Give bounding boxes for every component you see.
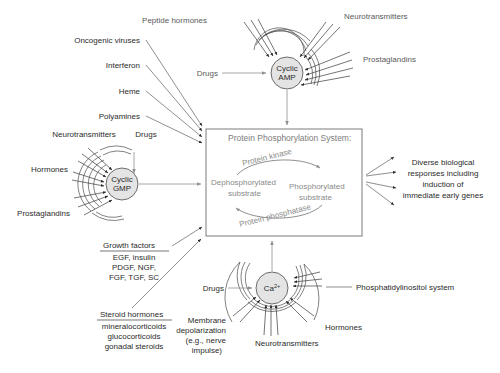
camp-ligand-ph-1 — [244, 22, 269, 57]
label-ca-hormones: Hormones — [325, 323, 362, 332]
phosphorylated-substrate-line2: substrate — [299, 193, 332, 202]
signal-transduction-diagram: Protein Phosphorylation System: Protein … — [0, 0, 500, 373]
cgmp-ligand-nt-1 — [88, 148, 112, 170]
label-polyamines: Polyamines — [99, 112, 140, 121]
camp-label-line1: Cyclic — [276, 64, 297, 73]
camp-membrane-arc-2 — [259, 31, 308, 46]
label-interferon: Interferon — [106, 61, 140, 70]
calcium-cell: Ca2+ — [225, 241, 322, 336]
ca-ligand-md-2 — [240, 300, 260, 322]
output-arrow-1 — [366, 157, 394, 175]
output-arrow-4 — [366, 184, 394, 205]
label-heme: Heme — [119, 87, 141, 96]
box-title: Protein Phosphorylation System: — [228, 133, 351, 143]
camp-ligand-ph-2 — [251, 20, 273, 56]
growth-factors-box: Growth factors EGF, insulin PDGF, NGF, F… — [100, 227, 202, 282]
output-line-3: induction of — [423, 180, 465, 189]
camp-ligand-nt-3 — [308, 27, 340, 60]
cyclic-gmp-cell: Cyclic GMP — [72, 146, 201, 220]
camp-membrane-arc-7 — [306, 57, 313, 84]
label-ca-neurotransmitters: Neurotransmitters — [255, 339, 319, 348]
growth-factors-line-2: PDGF, NGF, — [112, 263, 156, 272]
label-membrane-depol-3: (e.g., nerve — [186, 336, 227, 345]
cgmp-label-line1: Cyclic — [111, 175, 132, 184]
ca-ligand-hm-1 — [286, 301, 307, 322]
label-cgmp-neurotransmitters: Neurotransmitters — [52, 130, 116, 139]
label-camp-neurotransmitters: Neurotransmitters — [344, 12, 408, 21]
ca-ligand-nt-3 — [276, 305, 278, 335]
growth-factors-line-3: FGF, TGF, SC — [109, 273, 159, 282]
steroid-hormones-line-3: gonadal steroids — [105, 342, 164, 351]
cgmp-membrane-arc-5 — [100, 146, 132, 150]
cgmp-membrane-arc-6 — [103, 151, 131, 155]
growth-factors-line-1: EGF, insulin — [113, 253, 156, 262]
phosphorylated-substrate-line1: Phosphorylated — [289, 182, 345, 191]
cgmp-membrane-arc-8 — [96, 212, 122, 217]
diagram-canvas: Protein Phosphorylation System: Protein … — [0, 0, 500, 373]
label-membrane-depol-4: impulse) — [192, 346, 223, 355]
label-membrane-depol-2: depolarization — [176, 326, 226, 335]
camp-ligand-ph-3 — [258, 19, 277, 55]
label-camp-drugs: Drugs — [197, 69, 218, 78]
ca-ligand-md-1 — [233, 297, 256, 316]
steroid-hormones-line-1: mineralocorticoids — [102, 322, 166, 331]
label-ca-drugs: Drugs — [203, 284, 224, 293]
cgmp-membrane-arc-3 — [88, 160, 104, 206]
arrow-growth-factors — [172, 227, 202, 246]
label-cgmp-hormones: Hormones — [31, 165, 68, 174]
ca-ligand-nt-1 — [264, 305, 266, 335]
camp-label-line2: AMP — [278, 73, 295, 82]
label-peptide-hormones: Peptide hormones — [142, 16, 207, 25]
cgmp-label-line2: GMP — [113, 184, 131, 193]
label-oncogenic-viruses: Oncogenic viruses — [74, 36, 140, 45]
steroid-hormones-line-2: glucocorticoids — [108, 332, 161, 341]
label-cgmp-drugs: Drugs — [135, 130, 156, 139]
output-line-1: Diverse biological — [412, 158, 475, 167]
label-camp-prostaglandins: Prostaglandins — [363, 55, 416, 64]
camp-ligand-pg-1 — [305, 52, 350, 70]
camp-ligand-pg-4 — [301, 76, 350, 85]
label-cgmp-prostaglandins: Prostaglandins — [17, 209, 70, 218]
steroid-hormones-header: Steroid hormones — [100, 310, 163, 319]
growth-factors-header: Growth factors — [103, 241, 155, 250]
dephosphorylated-substrate-line2: substrate — [228, 189, 261, 198]
ca-ligand-hm-2 — [290, 298, 314, 316]
cyclic-amp-cell: Cyclic AMP — [222, 19, 353, 125]
camp-membrane-arc-4 — [254, 28, 304, 56]
camp-ligand-pg-2 — [306, 60, 352, 75]
camp-ligand-nt-2 — [304, 24, 333, 58]
dephosphorylated-substrate-line1: Dephosphorylated — [211, 178, 276, 187]
label-membrane-depol-1: Membrane — [188, 316, 227, 325]
output-arrow-2 — [366, 172, 396, 176]
arrow-oncogenic-viruses — [146, 40, 202, 126]
output-line-4: immediate early genes — [403, 191, 483, 200]
ca-membrane-arc-3 — [245, 263, 254, 298]
ca-ligand-pi-2 — [294, 279, 322, 282]
output-line-2: responses including — [408, 169, 479, 178]
ca-ligand-pi-1 — [294, 272, 320, 278]
label-phosphatidylinositol: Phosphatidylinositol system — [356, 283, 455, 292]
